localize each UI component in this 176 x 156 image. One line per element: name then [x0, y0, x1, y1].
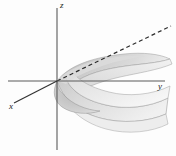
z-axis-label: z	[60, 1, 64, 10]
surface-plot-canvas	[0, 0, 176, 156]
surface-plot-figure: z y x	[0, 0, 176, 156]
axis-lines-back	[8, 8, 57, 81]
x-axis-label: x	[9, 102, 13, 111]
x-axis	[14, 81, 57, 103]
y-axis-label: y	[158, 82, 162, 91]
helicoid-surface	[54, 53, 172, 132]
